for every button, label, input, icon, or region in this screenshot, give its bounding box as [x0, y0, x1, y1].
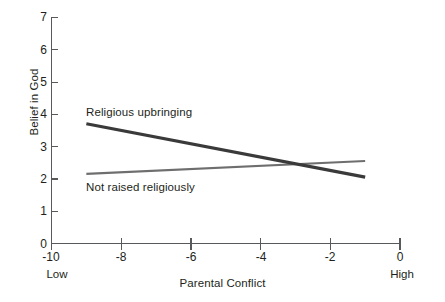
y-tick-label-3: 3	[25, 141, 47, 153]
y-tick-label-4: 4	[25, 108, 47, 120]
x-tick-label-minus8: -8	[101, 251, 141, 263]
y-tick-label-1: 1	[25, 205, 47, 217]
x-tick-label-minus4: -4	[241, 251, 281, 263]
y-tick-label-7: 7	[25, 11, 47, 23]
y-tick-label-5: 5	[25, 76, 47, 88]
series-line-not-raised-religiously	[86, 161, 365, 174]
series-label-religious-upbringing: Religious upbringing	[86, 106, 192, 118]
series-label-not-raised-religiously: Not raised religiously	[86, 181, 195, 193]
x-tick-label-minus2: -2	[310, 251, 350, 263]
x-axis-title: Parental Conflict	[0, 277, 445, 289]
y-tick-label-0: 0	[25, 238, 47, 250]
x-tick-label-minus6: -6	[171, 251, 211, 263]
x-tick-label-0: 0	[380, 251, 420, 263]
y-tick-label-2: 2	[25, 173, 47, 185]
series-line-religious-upbringing	[86, 124, 365, 177]
chart-container: Belief in God 7 6 5 4 3 2 1 0 -10 -8 -6 …	[0, 0, 445, 302]
x-tick-label-minus10: -10	[31, 251, 71, 263]
y-tick-label-6: 6	[25, 44, 47, 56]
y-axis	[52, 17, 58, 244]
x-axis	[52, 238, 401, 250]
